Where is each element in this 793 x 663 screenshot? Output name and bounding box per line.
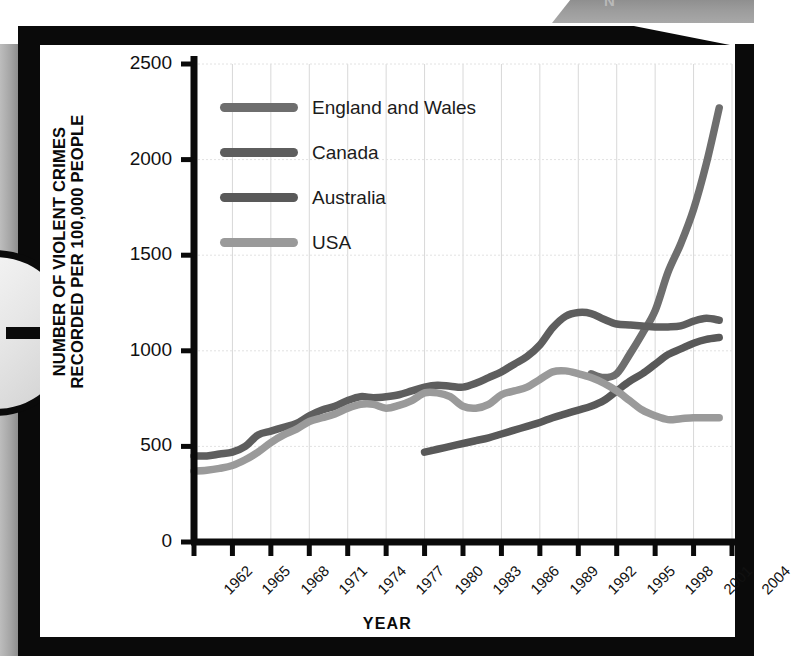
x-axis-title: YEAR <box>40 615 735 633</box>
y-axis-tick-label: 2000 <box>102 148 172 170</box>
legend-item: Australia <box>220 175 476 220</box>
y-axis-tick-label: 500 <box>102 434 172 456</box>
legend-label: England and Wales <box>312 97 476 119</box>
y-axis-tick-label: 0 <box>102 530 172 552</box>
y-axis-tick-label: 1000 <box>102 339 172 361</box>
legend-swatch <box>220 148 298 157</box>
frame-right-bar <box>735 44 754 644</box>
legend-label: Canada <box>312 142 379 164</box>
legend-item: Canada <box>220 130 476 175</box>
y-axis-tick-label: 1500 <box>102 243 172 265</box>
frame-top-bar <box>18 26 730 45</box>
legend-swatch <box>220 103 298 112</box>
legend-label: Australia <box>312 187 386 209</box>
y-axis-tick-label: 2500 <box>102 52 172 74</box>
legend-item: USA <box>220 220 476 265</box>
legend-swatch <box>220 238 298 247</box>
legend-label: USA <box>312 232 351 254</box>
x-axis-tick-label: 2004 <box>758 562 793 598</box>
frame-bottom-bar <box>18 637 754 656</box>
legend-swatch <box>220 193 298 202</box>
chart-legend: England and WalesCanadaAustraliaUSA <box>220 85 476 265</box>
legend-item: England and Wales <box>220 85 476 130</box>
top-right-tab-label: N <box>604 0 615 9</box>
chart-container: NUMBER OF VIOLENT CRIMES RECORDED PER 10… <box>40 45 735 637</box>
top-right-tab: N <box>552 0 754 23</box>
